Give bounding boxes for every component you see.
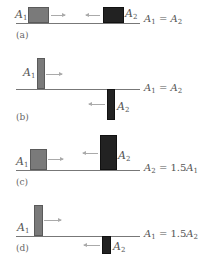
amplitude-equation: A1 = 1.5A2 — [144, 228, 198, 243]
panel-tag: (d) — [16, 243, 29, 253]
pulse2-label: A2 — [113, 241, 125, 256]
string-baseline — [16, 236, 140, 237]
left-arrow-icon — [84, 245, 100, 246]
pulse1-label: A1 — [17, 222, 29, 237]
right-arrow-icon — [44, 220, 61, 221]
pulse2-short-bar — [102, 236, 111, 254]
pulse1-bar — [34, 205, 43, 236]
panel-d: A1 A2 A1 = 1.5A2 (d) — [0, 0, 201, 268]
